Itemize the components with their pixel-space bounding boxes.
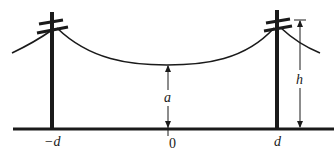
label-origin: 0 (169, 136, 176, 151)
right-pole (264, 10, 292, 129)
outer-cable-left (12, 30, 52, 53)
label-h: h (296, 72, 303, 87)
label-neg-d: −d (44, 134, 61, 149)
catenary-diagram: −d 0 d a h (0, 0, 334, 152)
label-a: a (164, 90, 171, 105)
left-pole (37, 12, 68, 129)
label-d: d (274, 134, 282, 149)
catenary-cable (57, 28, 274, 65)
